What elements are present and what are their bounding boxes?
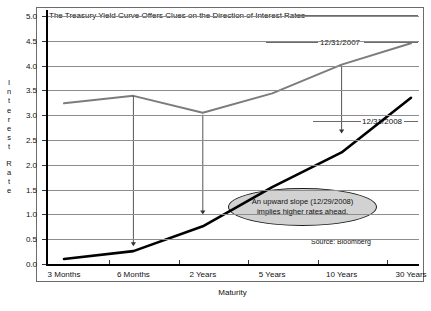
y-tick-label: 0.5 <box>15 235 37 244</box>
x-tick-label: 10 Years <box>326 270 357 279</box>
gridline <box>46 165 419 166</box>
series-line-12-31-2008 <box>64 98 411 259</box>
x-axis-line <box>46 264 419 266</box>
x-tick-mark <box>318 260 319 264</box>
leader-line <box>313 121 361 122</box>
gridline <box>46 90 419 91</box>
gridline <box>46 115 419 116</box>
x-tick-label: 3 Months <box>48 270 81 279</box>
y-tick-label: 2.0 <box>15 160 37 169</box>
x-tick-mark <box>248 260 249 264</box>
y-tick-label: 2.5 <box>15 136 37 145</box>
leader-line <box>404 121 418 122</box>
y-axis-line <box>46 10 48 264</box>
gridline <box>46 16 419 17</box>
y-tick-label: 1.5 <box>15 185 37 194</box>
y-tick-label: 4.5 <box>15 36 37 45</box>
gridline <box>46 66 419 67</box>
arrow-6-months-head <box>131 242 136 246</box>
series-line-12-31-2007 <box>64 43 411 112</box>
yield-curve-chart: InterestRate The Treasury Yield Curve Of… <box>0 0 431 311</box>
x-tick-label: 2 Years <box>189 270 216 279</box>
x-axis-title: Maturity <box>218 288 246 297</box>
y-tick-label: 5.0 <box>15 12 37 21</box>
y-tick-label: 3.5 <box>15 86 37 95</box>
gridline <box>46 239 419 240</box>
leader-line <box>364 42 418 43</box>
x-tick-mark <box>387 260 388 264</box>
arrow-10-years-head <box>339 130 344 134</box>
y-tick-label: 0.0 <box>15 260 37 269</box>
gridline <box>46 190 419 191</box>
x-tick-mark <box>109 260 110 264</box>
leader-line <box>266 42 318 43</box>
x-tick-label: 6 Months <box>117 270 150 279</box>
x-tick-mark <box>179 260 180 264</box>
x-tick-label: 5 Years <box>259 270 286 279</box>
gridline <box>46 140 419 141</box>
leader-line <box>296 15 418 16</box>
gridline <box>46 214 419 215</box>
y-tick-label: 4.0 <box>15 61 37 70</box>
x-tick-label: 30 Years <box>395 270 426 279</box>
y-tick-label: 3.0 <box>15 111 37 120</box>
y-tick-label: 1.0 <box>15 210 37 219</box>
